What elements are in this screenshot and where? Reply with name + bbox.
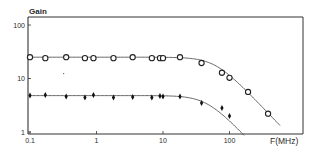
circle-marker bbox=[27, 55, 32, 60]
data-points bbox=[27, 55, 270, 119]
circle-marker bbox=[160, 56, 165, 61]
circle-marker bbox=[227, 75, 232, 80]
circle-marker bbox=[219, 70, 224, 75]
circle-marker bbox=[265, 111, 270, 116]
diamond-marker bbox=[44, 92, 47, 98]
circle-marker bbox=[130, 55, 135, 60]
diamond-marker bbox=[161, 94, 164, 100]
x-tick-label: 100 bbox=[224, 137, 236, 144]
axis-ticks: 0.1110100110100 bbox=[13, 22, 235, 145]
fit-curve bbox=[30, 57, 280, 125]
plot-frame bbox=[28, 17, 303, 134]
circle-marker bbox=[43, 56, 48, 61]
diamond-marker bbox=[92, 92, 95, 98]
diamond-marker bbox=[228, 113, 231, 119]
circle-marker bbox=[149, 56, 154, 61]
gain-vs-frequency-chart: 0.1110100110100 Gain F(MHz) bbox=[0, 0, 317, 149]
circle-marker bbox=[245, 89, 250, 94]
fit-curve bbox=[30, 96, 244, 136]
circle-marker bbox=[91, 56, 96, 61]
circle-marker bbox=[64, 55, 69, 60]
x-axis-title: F(MHz) bbox=[270, 136, 298, 146]
diamond-marker bbox=[158, 93, 161, 99]
diamond-marker bbox=[220, 105, 223, 111]
diamond-marker bbox=[65, 94, 68, 100]
diamond-marker bbox=[178, 94, 181, 100]
circle-marker bbox=[199, 60, 204, 65]
y-axis-title: Gain bbox=[29, 7, 47, 16]
x-tick-label: 0.1 bbox=[25, 137, 35, 144]
y-tick-label: 1 bbox=[21, 129, 25, 136]
y-tick-label: 10 bbox=[17, 75, 25, 82]
circle-marker bbox=[177, 55, 182, 60]
diamond-marker bbox=[28, 93, 31, 99]
y-tick-label: 100 bbox=[13, 22, 25, 29]
diamond-marker bbox=[131, 94, 134, 100]
x-tick-label: 10 bbox=[159, 137, 167, 144]
x-tick-label: 1 bbox=[95, 137, 99, 144]
circle-marker bbox=[111, 56, 116, 61]
circle-marker bbox=[82, 56, 87, 61]
